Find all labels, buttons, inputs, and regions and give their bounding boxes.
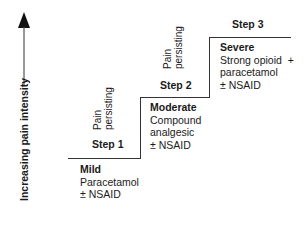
pain-text: Pain bbox=[92, 87, 103, 130]
pain-persisting-label-1: Pain persisting bbox=[92, 87, 114, 130]
persisting-text: persisting bbox=[173, 26, 184, 69]
step-3-tread bbox=[209, 37, 291, 38]
step-2-block: Moderate Compound analgesic ± NSAID bbox=[150, 101, 201, 151]
step-2-tread bbox=[140, 97, 209, 98]
step-3-line-3: ± NSAID bbox=[220, 79, 294, 92]
step-1-line-2: ± NSAID bbox=[80, 188, 139, 201]
step-1-label: Step 1 bbox=[92, 138, 124, 150]
step-2-line-1: Compound bbox=[150, 114, 201, 127]
pain-text: Pain bbox=[162, 26, 173, 69]
step-1-tread bbox=[68, 158, 140, 159]
step-3-label: Step 3 bbox=[232, 18, 264, 30]
step-3-line-1: Strong opioid + bbox=[220, 54, 294, 67]
step-1-line-1: Paracetamol bbox=[80, 176, 139, 189]
axis-label: Increasing pain intensity bbox=[18, 78, 30, 201]
pain-persisting-label-2: Pain persisting bbox=[162, 26, 184, 69]
step-1-riser bbox=[140, 97, 141, 159]
step-2-line-3: ± NSAID bbox=[150, 139, 201, 152]
step-1-block: Mild Paracetamol ± NSAID bbox=[80, 163, 139, 201]
step-2-level: Moderate bbox=[150, 101, 201, 114]
step-2-label: Step 2 bbox=[160, 79, 192, 91]
persisting-text: persisting bbox=[103, 87, 114, 130]
step-1-level: Mild bbox=[80, 163, 139, 176]
step-3-block: Severe Strong opioid + paracetamol ± NSA… bbox=[220, 41, 294, 91]
step-2-line-2: analgesic bbox=[150, 126, 201, 139]
step-2-riser bbox=[209, 37, 210, 98]
step-3-level: Severe bbox=[220, 41, 294, 54]
step-3-line-2: paracetamol bbox=[220, 66, 294, 79]
